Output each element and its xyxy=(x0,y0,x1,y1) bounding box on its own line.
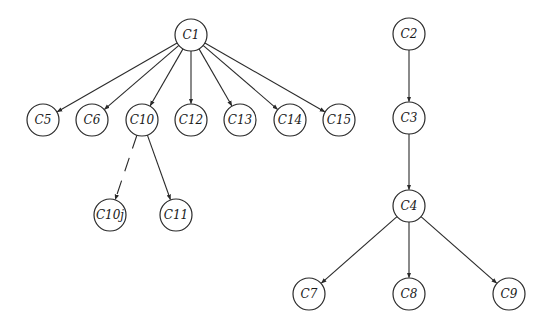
node-c4: C4 xyxy=(393,190,425,222)
node-c13: C13 xyxy=(224,104,256,136)
nodes-layer: C1C5C6C10C12C13C14C15C10jC11C2C3C4C7C8C9 xyxy=(27,18,525,310)
edge-c10-c10j xyxy=(115,135,137,199)
node-c3: C3 xyxy=(393,102,425,134)
node-label: C4 xyxy=(401,199,418,213)
node-label: C6 xyxy=(84,113,101,127)
node-label: C1 xyxy=(183,28,200,42)
node-c5: C5 xyxy=(27,104,59,136)
node-c9: C9 xyxy=(493,278,525,310)
edges-layer xyxy=(57,43,496,283)
edge-c4-c7 xyxy=(321,217,397,284)
edge-c1-c10 xyxy=(150,49,183,106)
node-label: C9 xyxy=(501,287,518,301)
node-c7: C7 xyxy=(293,278,325,310)
node-label: C12 xyxy=(179,113,203,127)
edge-c10-c11 xyxy=(147,135,170,199)
node-label: C13 xyxy=(228,113,253,127)
node-label: C14 xyxy=(278,113,302,127)
node-c15: C15 xyxy=(323,104,355,136)
edge-c4-c9 xyxy=(421,217,497,284)
node-label: C3 xyxy=(401,111,418,125)
node-c10j: C10j xyxy=(94,199,126,231)
node-c1: C1 xyxy=(175,19,207,51)
node-c12: C12 xyxy=(175,104,207,136)
node-label: C7 xyxy=(301,287,318,301)
node-label: C2 xyxy=(401,27,418,41)
tree-diagram: C1C5C6C10C12C13C14C15C10jC11C2C3C4C7C8C9 xyxy=(0,0,549,333)
node-c6: C6 xyxy=(76,104,108,136)
node-label: C10j xyxy=(96,208,124,222)
node-label: C8 xyxy=(401,287,418,301)
edge-c1-c14 xyxy=(203,45,277,109)
node-c11: C11 xyxy=(160,199,192,231)
node-c10: C10 xyxy=(126,104,158,136)
edge-c1-c13 xyxy=(199,49,232,106)
edge-c1-c15 xyxy=(205,43,325,112)
node-label: C10 xyxy=(130,113,155,127)
edge-c1-c6 xyxy=(105,45,179,109)
node-label: C11 xyxy=(164,208,188,222)
node-label: C15 xyxy=(327,113,351,127)
node-c2: C2 xyxy=(393,18,425,50)
edge-c1-c5 xyxy=(57,43,177,112)
node-c14: C14 xyxy=(274,104,306,136)
node-c8: C8 xyxy=(393,278,425,310)
node-label: C5 xyxy=(35,113,52,127)
